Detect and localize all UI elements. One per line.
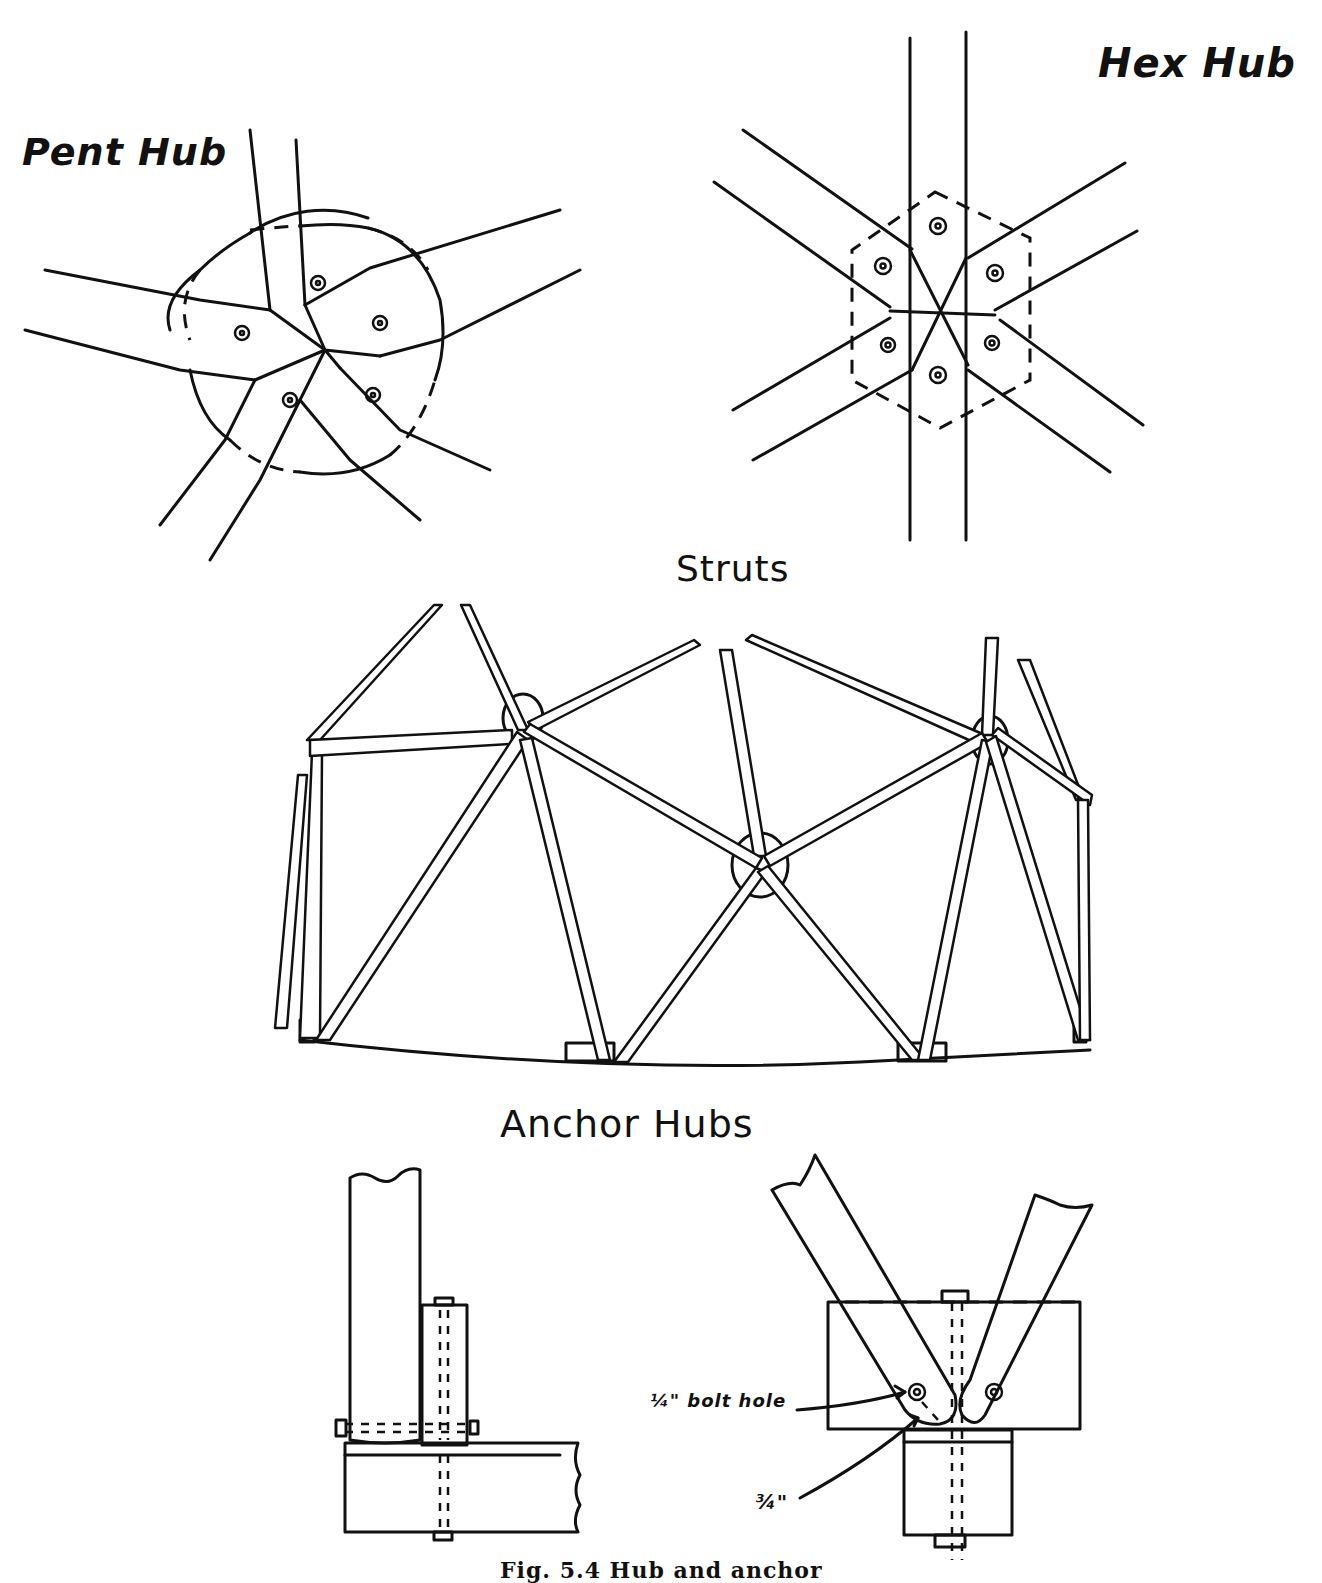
pent-hub-drawing xyxy=(25,130,580,560)
anchor-hub-side-view xyxy=(336,1169,580,1540)
dome-struts-drawing xyxy=(275,605,1092,1066)
hex-hub-drawing xyxy=(714,32,1143,540)
anchor-hub-front-view xyxy=(772,1155,1092,1560)
